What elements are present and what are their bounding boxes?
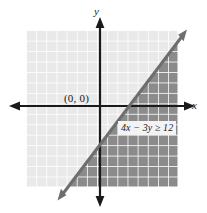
grid-lines bbox=[26, 30, 178, 187]
origin-point-label: (0, 0) bbox=[64, 93, 89, 104]
y-axis-label: y bbox=[94, 6, 99, 17]
plot-canvas bbox=[0, 0, 207, 213]
x-axis-label: x bbox=[192, 100, 197, 111]
inequality-graph-figure: y x (0, 0) 4x − 3y ≥ 12 bbox=[0, 0, 207, 213]
inequality-label: 4x − 3y ≥ 12 bbox=[118, 121, 176, 135]
